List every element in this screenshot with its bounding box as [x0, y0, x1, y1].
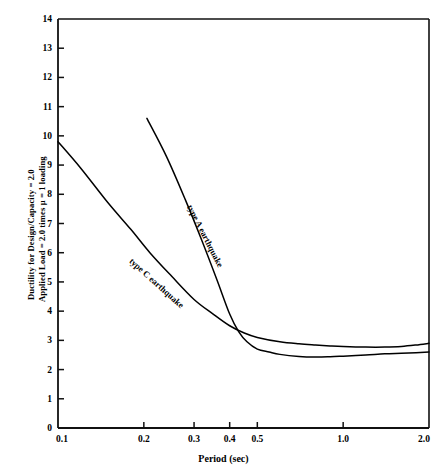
y-tick-label: 6 — [30, 248, 52, 258]
x-tick-label: 0.5 — [242, 434, 272, 444]
y-tick-label: 2 — [30, 365, 52, 375]
plot-canvas — [0, 0, 447, 471]
y-tick-label: 0 — [30, 423, 52, 433]
y-tick-label: 5 — [30, 277, 52, 287]
y-tick-label: 12 — [30, 72, 52, 82]
x-tick-label: 0.3 — [179, 434, 209, 444]
x-tick-label: 2.0 — [409, 434, 439, 444]
data-series-group — [58, 118, 429, 357]
y-tick-label: 3 — [30, 335, 52, 345]
y-tick-label: 4 — [30, 306, 52, 316]
y-tick-label: 7 — [30, 219, 52, 229]
y-tick-label: 11 — [30, 102, 52, 112]
x-tick-label: 0.1 — [47, 434, 77, 444]
x-tick-label: 0.4 — [215, 434, 245, 444]
y-tick-label: 13 — [30, 43, 52, 53]
plot-frame — [58, 19, 429, 428]
series-line — [58, 142, 429, 347]
y-tick-label: 9 — [30, 160, 52, 170]
y-tick-label: 10 — [30, 131, 52, 141]
y-tick-label: 1 — [30, 394, 52, 404]
y-tick-label: 8 — [30, 189, 52, 199]
y-axis-ticks — [58, 48, 64, 399]
x-tick-label: 0.2 — [129, 434, 159, 444]
y-tick-label: 14 — [30, 14, 52, 24]
x-tick-label: 1.0 — [328, 434, 358, 444]
x-axis-title: Period (sec) — [0, 453, 447, 464]
series-line — [147, 118, 429, 357]
chart-figure: Ductility for Design/Capacity = 2.0 Appl… — [0, 0, 447, 471]
